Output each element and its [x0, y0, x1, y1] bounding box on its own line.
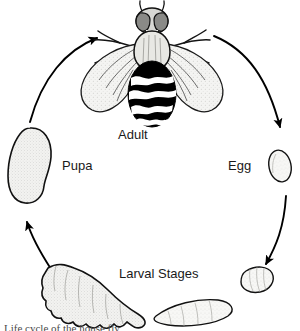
- fly-eye-left: [136, 13, 150, 31]
- egg-illustration: [266, 148, 294, 184]
- label-larval-stages: Larval Stages: [119, 267, 199, 281]
- arrow-egg-to-larva: [266, 196, 286, 264]
- life-cycle-diagram: [0, 0, 300, 331]
- label-egg: Egg: [228, 159, 251, 173]
- arrow-larva-to-pupa: [27, 222, 51, 269]
- figure-caption: Life cycle of the house fly: [4, 322, 120, 331]
- larva-second-instar: [154, 300, 232, 326]
- label-adult: Adult: [118, 128, 148, 142]
- adult-fly-illustration: [81, 1, 223, 127]
- pupa-illustration: [8, 128, 51, 203]
- fly-eye-right: [154, 13, 168, 31]
- figure-canvas: Adult Pupa Egg Larval Stages Life cycle …: [0, 0, 300, 331]
- label-pupa: Pupa: [62, 159, 92, 173]
- arrow-adult-to-egg: [214, 36, 280, 127]
